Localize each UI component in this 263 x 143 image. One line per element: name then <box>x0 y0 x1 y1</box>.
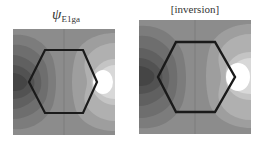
title-subscript: E1ga <box>61 14 80 24</box>
psi-symbol: ψ <box>52 6 61 22</box>
right-contour-plot <box>139 20 251 134</box>
right-panel-title: [inversion] <box>170 3 220 15</box>
left-contour-plot <box>13 29 115 135</box>
left-panel-title: ψE1ga <box>42 5 90 23</box>
